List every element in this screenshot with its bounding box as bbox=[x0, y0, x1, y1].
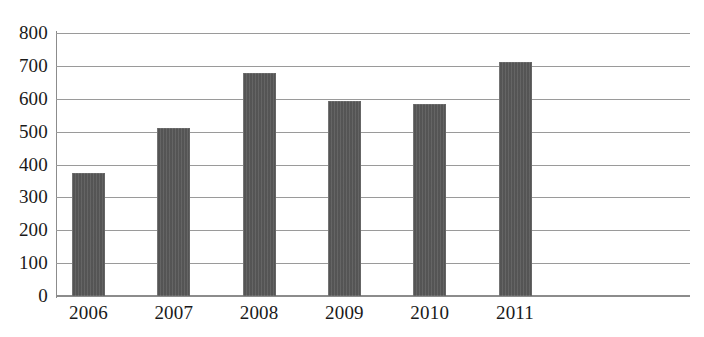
bar-2008 bbox=[243, 73, 276, 296]
y-axis-tick-label: 600 bbox=[2, 89, 48, 108]
x-axis-tick-label: 2010 bbox=[385, 302, 475, 324]
bar-2010 bbox=[413, 104, 446, 296]
y-axis-tick-label: 0 bbox=[2, 286, 48, 305]
y-axis-tick-label: 400 bbox=[2, 155, 48, 174]
y-axis-tick-label: 800 bbox=[2, 23, 48, 42]
x-axis-tick-label: 2007 bbox=[129, 302, 219, 324]
gridline bbox=[56, 33, 690, 34]
x-axis-tick-label: 2009 bbox=[299, 302, 389, 324]
x-axis-tick-label: 2011 bbox=[470, 302, 560, 324]
plot-area: 0100200300400500600700800 bbox=[56, 33, 690, 296]
gridline bbox=[56, 132, 690, 133]
gridline bbox=[56, 197, 690, 198]
bar-chart-figure: 0100200300400500600700800 20062007200820… bbox=[0, 0, 704, 337]
y-axis-tick-label: 500 bbox=[2, 122, 48, 141]
bar-2011 bbox=[499, 62, 532, 296]
bar-2009 bbox=[328, 101, 361, 296]
gridline bbox=[56, 230, 690, 231]
x-axis-tick-label: 2008 bbox=[214, 302, 304, 324]
gridline bbox=[56, 66, 690, 67]
gridline bbox=[56, 165, 690, 166]
x-axis-tick-labels: 200620072008200920102011 bbox=[56, 302, 690, 332]
y-axis-tick-label: 300 bbox=[2, 187, 48, 206]
y-axis-tick-label: 700 bbox=[2, 56, 48, 75]
bar-2006 bbox=[72, 173, 105, 296]
gridline bbox=[56, 99, 690, 100]
gridline bbox=[56, 263, 690, 264]
y-axis-tick-label: 100 bbox=[2, 253, 48, 272]
bar-2007 bbox=[157, 128, 190, 296]
y-axis-tick-label: 200 bbox=[2, 220, 48, 239]
x-axis-baseline bbox=[56, 295, 690, 297]
x-axis-tick-label: 2006 bbox=[44, 302, 134, 324]
